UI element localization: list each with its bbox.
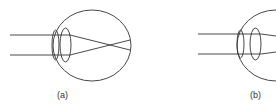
panel-a [10, 10, 131, 81]
lens-a [60, 28, 71, 62]
eyeball-b [237, 10, 276, 81]
panel-a-label: (a) [57, 90, 68, 100]
eyeball-a [53, 10, 131, 81]
panel-b [198, 10, 276, 81]
lens-b [250, 28, 261, 60]
eye-ray-diagram [0, 0, 276, 105]
refracted-ray-bottom-b [261, 52, 276, 54]
panel-b-label: (b) [250, 90, 261, 100]
refracted-ray-top-b [261, 34, 276, 36]
